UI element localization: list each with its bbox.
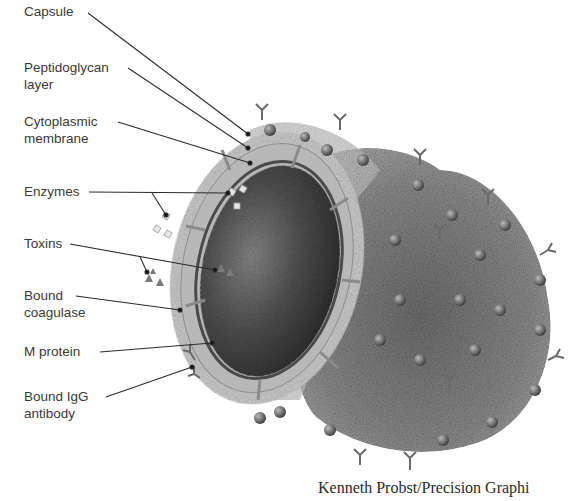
label-peptidoglycan-layer: Peptidoglycan layer [24, 59, 109, 93]
label-enzymes: Enzymes [24, 183, 80, 200]
label-bound-coagulase: Bound coagulase [24, 287, 86, 321]
label-bound-igg-antibody: Bound IgG antibody [24, 388, 89, 422]
label-capsule: Capsule [24, 3, 74, 20]
image-credit: Kenneth Probst/Precision Graphi [318, 479, 530, 497]
label-m-protein: M protein [24, 343, 80, 360]
label-toxins: Toxins [24, 235, 62, 252]
label-cytoplasmic-membrane: Cytoplasmic membrane [24, 113, 98, 147]
